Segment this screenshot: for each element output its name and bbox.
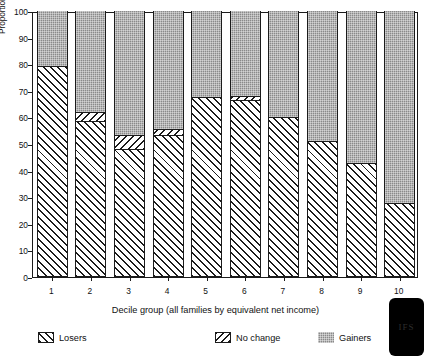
x-tick-mark [52,277,53,281]
bar-segment-losers [114,149,145,277]
bar-decile-3[interactable] [114,11,145,277]
publisher-logo-glyph: IFS [389,298,424,356]
bar-decile-10[interactable] [384,11,415,277]
y-tick-label: 90 [8,34,28,44]
stacked-bar-chart: Proportions of gainers and losers in eac… [0,0,431,360]
bar-decile-5[interactable] [191,11,222,277]
x-tick-label: 7 [273,286,293,296]
bar-decile-6[interactable] [230,11,261,277]
bar-segment-nochange [114,135,145,150]
x-tick-mark [168,277,169,281]
y-tick-label: 0 [8,273,28,283]
bar-segment-gainers [75,11,106,112]
legend-swatch-gainers-icon [318,332,334,343]
x-tick-label: 6 [234,286,254,296]
plot-area [32,12,418,278]
y-tick-label: 80 [8,60,28,70]
y-tick-label: 10 [8,246,28,256]
legend-item-gainers[interactable]: Gainers [318,332,371,343]
bar-segment-gainers [191,11,222,97]
bar-segment-gainers [114,11,145,135]
bar-segment-losers [153,135,184,277]
legend-swatch-nochange-icon [215,332,231,343]
x-tick-mark [91,277,92,281]
bar-segment-losers [346,163,377,277]
chart-legend: LosersNo changeGainers [0,330,431,352]
x-tick-label: 9 [350,286,370,296]
publisher-logo: IFS [389,298,424,356]
x-tick-mark [361,277,362,281]
bar-segment-nochange [75,112,106,121]
bar-decile-1[interactable] [37,11,68,277]
bar-segment-gainers [153,11,184,129]
x-tick-mark [130,277,131,281]
legend-label: Gainers [339,333,371,343]
bar-segment-losers [230,100,261,277]
y-tick-label: 60 [8,113,28,123]
bar-segment-losers [268,117,299,277]
bar-decile-4[interactable] [153,11,184,277]
legend-label: Losers [59,333,87,343]
x-tick-label: 5 [196,286,216,296]
x-tick-mark [400,277,401,281]
bar-decile-2[interactable] [75,11,106,277]
y-tick-label: 70 [8,87,28,97]
x-axis-title: Decile group (all families by equivalent… [0,305,431,315]
legend-item-nochange[interactable]: No change [215,332,280,343]
bar-segment-gainers [307,11,338,141]
x-tick-mark [245,277,246,281]
x-tick-mark [323,277,324,281]
x-tick-mark [207,277,208,281]
bar-segment-gainers [37,11,68,66]
x-tick-mark [284,277,285,281]
bar-segment-gainers [384,11,415,203]
bar-decile-7[interactable] [268,11,299,277]
bar-decile-9[interactable] [346,11,377,277]
y-tick-label: 20 [8,220,28,230]
x-tick-label: 10 [389,286,409,296]
bar-segment-nochange [153,129,184,134]
bar-decile-8[interactable] [307,11,338,277]
legend-item-losers[interactable]: Losers [38,332,87,343]
bar-segment-gainers [230,11,261,96]
bar-segment-nochange [230,96,261,100]
bar-segment-losers [191,97,222,277]
y-tick-label: 100 [8,7,28,17]
x-tick-label: 4 [157,286,177,296]
x-tick-label: 8 [312,286,332,296]
x-tick-label: 3 [119,286,139,296]
y-tick-label: 40 [8,167,28,177]
bar-segment-gainers [268,11,299,117]
bar-segment-losers [307,141,338,277]
bar-segment-losers [37,66,68,277]
x-tick-label: 2 [80,286,100,296]
y-tick-label: 50 [8,140,28,150]
x-tick-label: 1 [41,286,61,296]
bar-segment-gainers [346,11,377,163]
legend-swatch-losers-icon [38,332,54,343]
y-tick-label: 30 [8,193,28,203]
y-tick-mark [28,278,32,279]
y-axis-title: Proportions of gainers and losers in eac… [0,0,7,34]
legend-label: No change [236,333,280,343]
bar-segment-losers [75,121,106,277]
bar-segment-losers [384,203,415,277]
